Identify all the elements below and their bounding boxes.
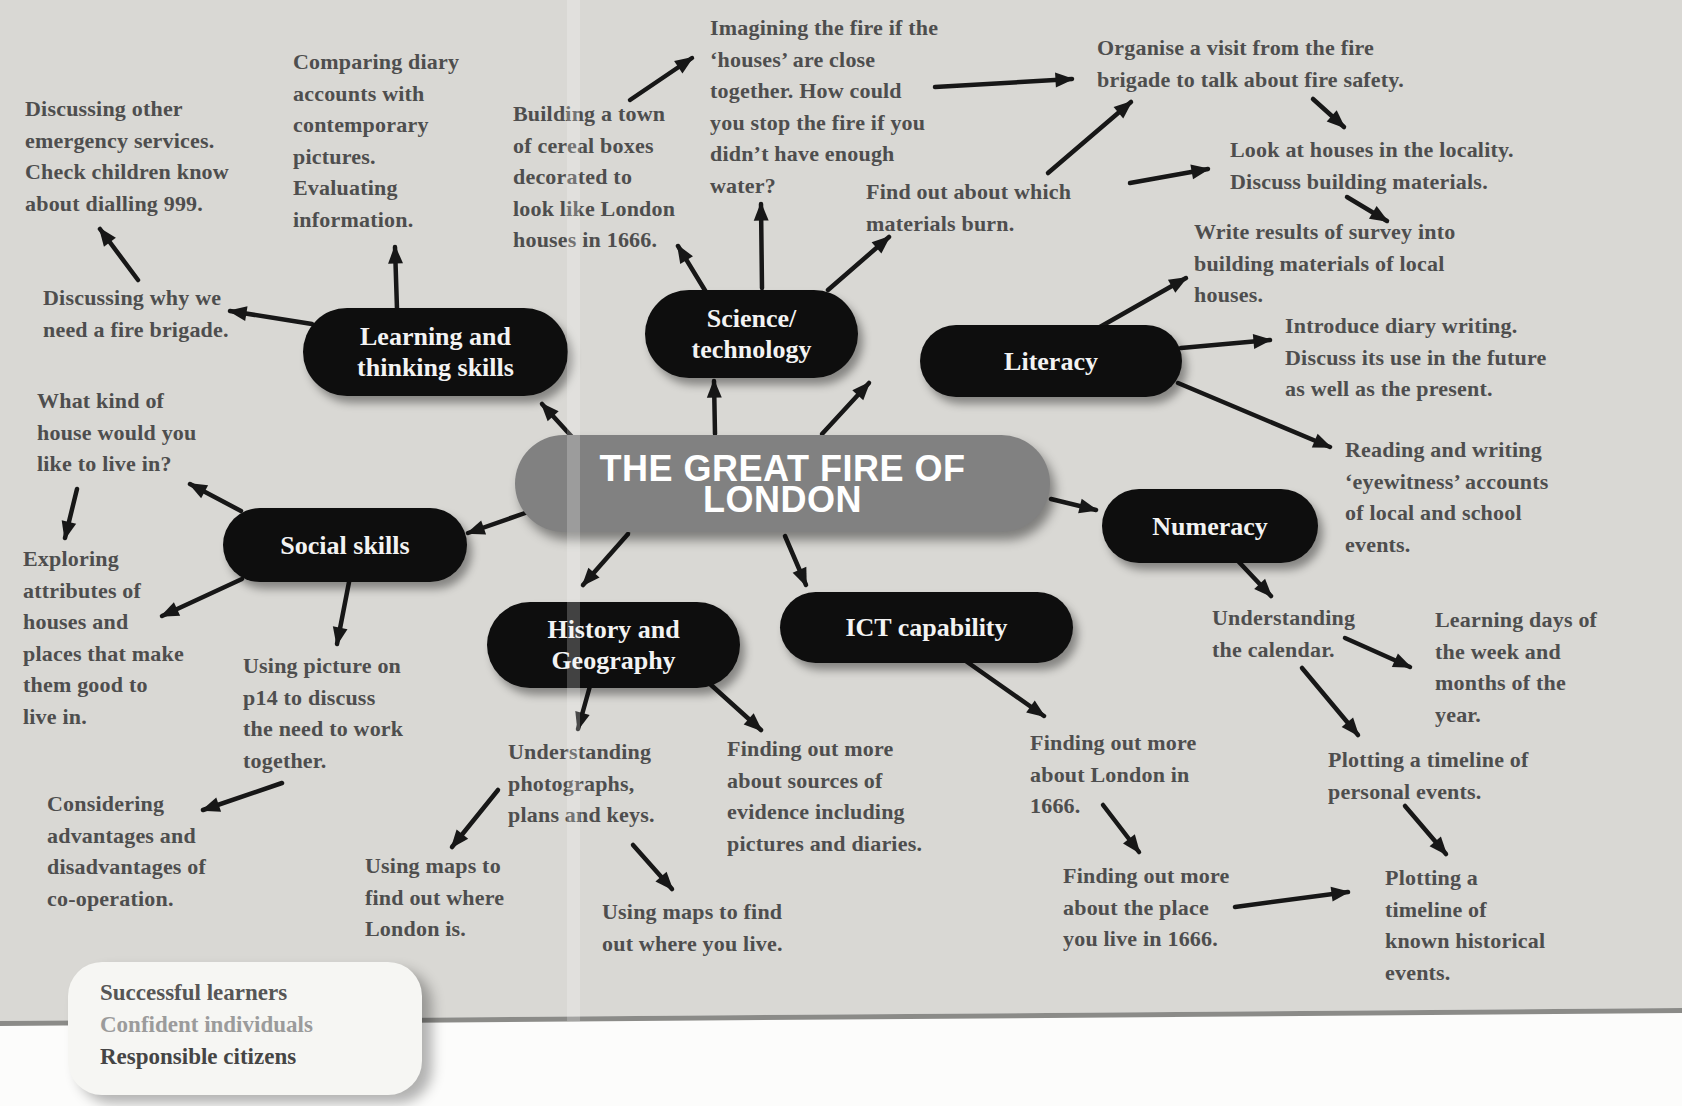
- arrow-15: [1051, 499, 1096, 510]
- node-science-technology[interactable]: Science/ technology: [645, 290, 858, 378]
- values-line-successful-learners: Successful learners: [100, 977, 422, 1009]
- arrow-11: [828, 237, 889, 290]
- arrow-2: [395, 247, 397, 309]
- arrow-10: [761, 204, 762, 288]
- arrow-27: [633, 845, 672, 889]
- arrow-1: [230, 311, 312, 324]
- node-label: Learning and thinking skills: [357, 321, 514, 383]
- arrow-16: [468, 512, 528, 533]
- arrow-35: [1345, 638, 1410, 667]
- central-topic-label: THE GREAT FIRE OF LONDON: [515, 453, 1050, 515]
- arrow-13: [542, 404, 573, 438]
- node-label: ICT capability: [845, 612, 1007, 643]
- arrow-33: [1178, 383, 1330, 447]
- arrow-37: [1405, 806, 1446, 854]
- arrow-23: [203, 783, 282, 810]
- arrow-7: [1130, 169, 1208, 183]
- arrow-9: [678, 246, 706, 292]
- node-literacy[interactable]: Literacy: [920, 325, 1182, 397]
- node-label: Numeracy: [1152, 511, 1268, 542]
- arrow-32: [1181, 340, 1270, 348]
- arrow-30: [1235, 892, 1348, 907]
- arrow-29: [1103, 805, 1139, 852]
- node-numeracy[interactable]: Numeracy: [1102, 489, 1318, 563]
- values-line-responsible-citizens: Responsible citizens: [100, 1041, 422, 1073]
- values-box: Successful learners Confident individual…: [68, 962, 422, 1095]
- node-history-geography[interactable]: History and Geography: [487, 602, 740, 688]
- arrow-20: [65, 489, 77, 538]
- arrow-18: [785, 536, 806, 585]
- arrow-25: [710, 684, 761, 730]
- arrow-8: [1347, 197, 1387, 221]
- arrow-26: [452, 790, 498, 847]
- arrow-6: [1313, 99, 1344, 127]
- scanned-page: Discussing other emergency services. Che…: [0, 0, 1682, 1106]
- node-label: Science/ technology: [692, 303, 812, 365]
- node-label: History and Geography: [547, 614, 679, 676]
- central-topic-node[interactable]: THE GREAT FIRE OF LONDON: [515, 435, 1050, 532]
- arrow-24: [578, 686, 590, 729]
- arrow-34: [1238, 561, 1271, 596]
- arrow-21: [162, 579, 242, 616]
- arrow-19: [190, 484, 241, 511]
- node-label: Social skills: [280, 530, 409, 561]
- arrow-4: [935, 79, 1072, 87]
- node-learning-thinking-skills[interactable]: Learning and thinking skills: [303, 308, 568, 396]
- arrow-36: [1302, 668, 1358, 735]
- node-label: Literacy: [1004, 346, 1098, 377]
- arrow-3: [630, 58, 692, 100]
- node-social-skills[interactable]: Social skills: [223, 508, 467, 582]
- arrow-22: [337, 577, 350, 644]
- arrow-12: [714, 381, 715, 434]
- arrow-14: [822, 383, 869, 434]
- arrow-17: [583, 534, 628, 585]
- arrow-0: [100, 229, 138, 280]
- node-ict-capability[interactable]: ICT capability: [780, 592, 1073, 663]
- values-line-confident-individuals: Confident individuals: [100, 1009, 422, 1041]
- arrow-5: [1048, 102, 1131, 173]
